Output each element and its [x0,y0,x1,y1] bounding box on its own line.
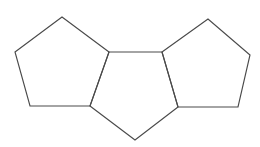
figure-canvas [0,0,260,147]
pentagon-diagram-svg [0,0,260,147]
